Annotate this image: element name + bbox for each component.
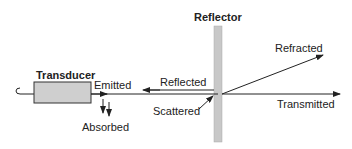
- transducer-cable: [16, 88, 34, 94]
- reflected-label: Reflected: [160, 77, 206, 88]
- reflector-label: Reflector: [194, 12, 242, 23]
- absorbed-label: Absorbed: [82, 122, 129, 133]
- transducer-body: [34, 82, 91, 103]
- emitted-label: Emitted: [94, 80, 131, 91]
- scattered-arrow: [199, 96, 213, 109]
- refracted-label: Refracted: [275, 43, 323, 54]
- transmitted-label: Transmitted: [277, 99, 335, 110]
- transducer-label: Transducer: [36, 70, 95, 81]
- scattered-label: Scattered: [153, 106, 200, 117]
- reflector-bar: [214, 26, 222, 142]
- refracted-arrow: [222, 55, 323, 94]
